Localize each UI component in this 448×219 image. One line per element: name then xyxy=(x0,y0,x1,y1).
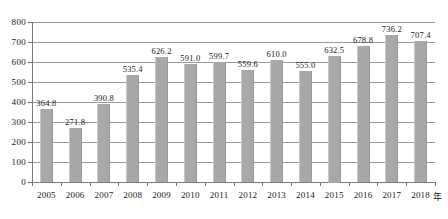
x-axis-tick-mark xyxy=(262,182,263,186)
y-axis-tick-label: 0 xyxy=(0,177,26,187)
bar xyxy=(69,128,82,182)
y-axis-line xyxy=(32,22,33,183)
x-axis-tick-label: 2010 xyxy=(181,190,200,200)
x-axis-tick-mark xyxy=(320,182,321,186)
bar-value-label: 626.2 xyxy=(151,46,171,56)
x-axis-tick-mark xyxy=(435,182,436,186)
y-axis-tick-label: 600 xyxy=(0,57,26,67)
bar xyxy=(357,46,370,182)
x-axis-tick-label: 2014 xyxy=(296,190,315,200)
bar xyxy=(97,104,110,182)
bar-value-label: 707.4 xyxy=(411,30,431,40)
bar xyxy=(241,70,254,182)
x-axis-tick-mark xyxy=(349,182,350,186)
x-axis-tick-mark xyxy=(234,182,235,186)
y-axis-tick-mark xyxy=(28,62,32,63)
y-axis-tick-mark xyxy=(28,142,32,143)
bar xyxy=(328,56,341,183)
x-axis-tick-mark xyxy=(118,182,119,186)
y-axis-tick-label: 700 xyxy=(0,37,26,47)
x-axis-tick-mark xyxy=(90,182,91,186)
x-axis-tick-label: 2012 xyxy=(238,190,257,200)
bar xyxy=(414,41,427,182)
bar-value-label: 535.4 xyxy=(123,64,143,74)
y-axis-tick-mark xyxy=(28,82,32,83)
bar-value-label: 364.8 xyxy=(36,98,56,108)
bar-value-label: 736.2 xyxy=(382,24,402,34)
gridline xyxy=(32,62,435,63)
gridline xyxy=(32,142,435,143)
x-axis-tick-mark xyxy=(406,182,407,186)
y-axis-tick-label: 500 xyxy=(0,77,26,87)
bar-chart: 0100200300400500600700800 364.8271.8390.… xyxy=(0,0,448,219)
x-axis-tick-mark xyxy=(291,182,292,186)
x-axis-tick-label: 2013 xyxy=(267,190,286,200)
x-axis-tick-label: 2006 xyxy=(66,190,85,200)
gridline xyxy=(32,162,435,163)
x-axis-tick-mark xyxy=(147,182,148,186)
x-axis-tick-mark xyxy=(205,182,206,186)
bar xyxy=(40,109,53,182)
x-axis-tick-label: 2018 xyxy=(411,190,430,200)
y-axis-tick-label: 100 xyxy=(0,157,26,167)
bar-value-label: 559.6 xyxy=(238,59,258,69)
bar-value-label: 599.7 xyxy=(209,51,229,61)
bar xyxy=(184,64,197,182)
gridline xyxy=(32,42,435,43)
y-axis-tick-label: 300 xyxy=(0,117,26,127)
bar-value-label: 591.0 xyxy=(180,53,200,63)
x-axis-tick-mark xyxy=(176,182,177,186)
gridline xyxy=(32,122,435,123)
bar xyxy=(385,35,398,182)
x-axis-unit-label: 年 xyxy=(433,190,442,203)
x-axis-tick-label: 2009 xyxy=(152,190,171,200)
x-axis-tick-mark xyxy=(377,182,378,186)
x-axis-tick-label: 2015 xyxy=(325,190,344,200)
y-axis-tick-label: 200 xyxy=(0,137,26,147)
bar-value-label: 555.0 xyxy=(295,60,315,70)
x-axis-tick-label: 2017 xyxy=(382,190,401,200)
bar xyxy=(270,60,283,182)
y-axis-tick-label: 800 xyxy=(0,17,26,27)
bar-value-label: 271.8 xyxy=(65,117,85,127)
bar-value-label: 610.0 xyxy=(267,49,287,59)
x-axis-tick-label: 2007 xyxy=(95,190,114,200)
bar xyxy=(126,75,139,182)
y-axis-tick-mark xyxy=(28,102,32,103)
y-axis-tick-mark xyxy=(28,22,32,23)
bar-value-label: 632.5 xyxy=(324,45,344,55)
y-axis-tick-mark xyxy=(28,42,32,43)
gridline xyxy=(32,82,435,83)
y-axis-tick-mark xyxy=(28,162,32,163)
x-axis-tick-label: 2008 xyxy=(123,190,142,200)
bar xyxy=(213,62,226,182)
bar xyxy=(155,57,168,182)
x-axis-tick-label: 2011 xyxy=(210,190,228,200)
bar-value-label: 390.8 xyxy=(94,93,114,103)
x-axis-tick-mark xyxy=(32,182,33,186)
gridline xyxy=(32,102,435,103)
bar xyxy=(299,71,312,182)
x-axis-tick-mark xyxy=(61,182,62,186)
gridline xyxy=(32,22,435,23)
x-axis-tick-label: 2005 xyxy=(37,190,56,200)
y-axis-tick-mark xyxy=(28,122,32,123)
bar-value-label: 678.8 xyxy=(353,35,373,45)
y-axis-tick-label: 400 xyxy=(0,97,26,107)
x-axis-tick-label: 2016 xyxy=(354,190,373,200)
